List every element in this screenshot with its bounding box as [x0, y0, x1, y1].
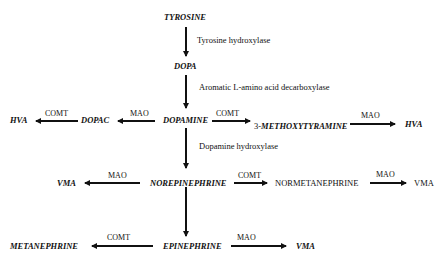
methoxytyramine-name: METHOXYTYRAMINE [261, 121, 347, 131]
node-vma-right: VMA [414, 179, 434, 188]
node-vma-left: VMA [57, 179, 76, 188]
label-mao-dopamine-dopac: MAO [130, 110, 149, 118]
label-dopamine-hydroxylase: Dopamine hydroxylase [199, 142, 278, 151]
node-dopa: DOPA [174, 62, 197, 71]
node-epinephrine: EPINEPHRINE [163, 242, 222, 251]
node-dopac: DOPAC [81, 116, 109, 125]
label-mao-nmn-vma: MAO [376, 171, 395, 179]
node-3-methoxytyramine: 3-METHOXYTYRAMINE [254, 116, 348, 132]
node-hva-right: HVA [405, 120, 422, 129]
label-comt-dopamine-3mt: COMT [216, 110, 239, 118]
label-tyrosine-hydroxylase: Tyrosine hydroxylase [197, 36, 270, 45]
label-comt-epi-metanephrine: COMT [107, 234, 130, 242]
label-aadc: Aromatic L-amino acid decarboxylase [199, 83, 330, 92]
node-tyrosine: TYROSINE [164, 13, 206, 22]
node-vma-bottom: VMA [296, 242, 315, 251]
label-comt-dopac-hva: COMT [45, 110, 68, 118]
label-mao-3mt-hva: MAO [361, 112, 380, 120]
label-comt-ne-nmn: COMT [238, 172, 261, 180]
node-norepinephrine: NOREPINEPHRINE [150, 179, 227, 188]
node-normetanephrine: NORMETANEPHRINE [275, 179, 358, 188]
label-mao-ne-vma: MAO [108, 172, 127, 180]
node-hva-left: HVA [10, 116, 27, 125]
label-mao-epi-vma: MAO [237, 234, 256, 242]
node-dopamine: DOPAMINE [163, 116, 208, 125]
bleed-through-text [0, 252, 444, 264]
node-metanephrine: METANEPHRINE [10, 242, 78, 251]
